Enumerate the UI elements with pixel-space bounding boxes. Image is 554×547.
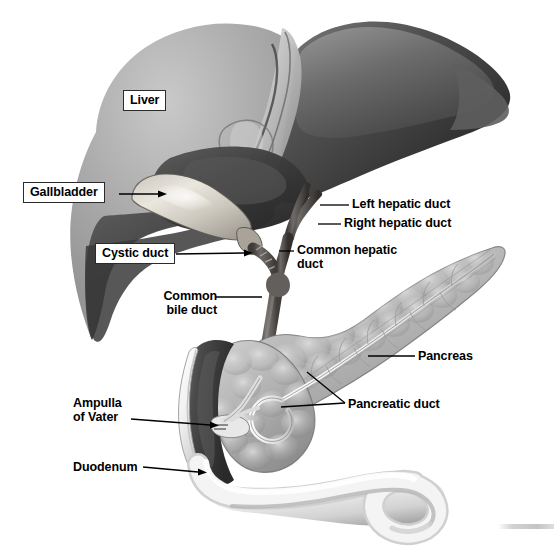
label-duodenum[interactable]: Duodenum <box>73 460 137 474</box>
cystic-duct-leader <box>176 253 244 254</box>
label-pancreatic-duct[interactable]: Pancreatic duct <box>348 397 440 411</box>
label-gallbladder[interactable]: Gallbladder <box>23 182 105 203</box>
duct-confluence <box>266 273 290 298</box>
bottom-edge-artifact <box>498 524 554 529</box>
label-ampulla-of-vater[interactable]: Ampulla of Vater <box>73 396 122 424</box>
label-left-hepatic-duct[interactable]: Left hepatic duct <box>352 197 450 211</box>
label-common-bile-duct[interactable]: Common bile duct <box>145 289 217 317</box>
anatomy-figure: Liver Gallbladder Cystic duct Left hepat… <box>0 0 554 547</box>
label-liver[interactable]: Liver <box>123 90 166 111</box>
label-common-hepatic-duct[interactable]: Common hepatic duct <box>297 243 397 271</box>
label-right-hepatic-duct[interactable]: Right hepatic duct <box>344 216 451 230</box>
label-pancreas[interactable]: Pancreas <box>418 349 473 363</box>
label-cystic-duct[interactable]: Cystic duct <box>95 243 175 264</box>
